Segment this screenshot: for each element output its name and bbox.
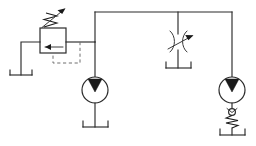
relief-valve-adjust-arrow-icon <box>42 8 66 27</box>
flow-control-valve[interactable] <box>168 12 194 68</box>
pump-left[interactable] <box>82 42 108 127</box>
hydraulic-circuit-diagram <box>0 0 256 146</box>
pump-right[interactable] <box>219 12 245 108</box>
relief-valve[interactable] <box>21 8 95 75</box>
relief-valve-body <box>40 28 66 53</box>
relief-tank-line <box>21 42 40 75</box>
flow-control-adjust-arrow-icon <box>168 35 194 49</box>
check-valve-spring-icon <box>226 115 238 128</box>
check-valve-spring[interactable] <box>226 109 238 136</box>
main-pressure-line <box>95 12 232 42</box>
circuit-canvas <box>0 0 256 146</box>
